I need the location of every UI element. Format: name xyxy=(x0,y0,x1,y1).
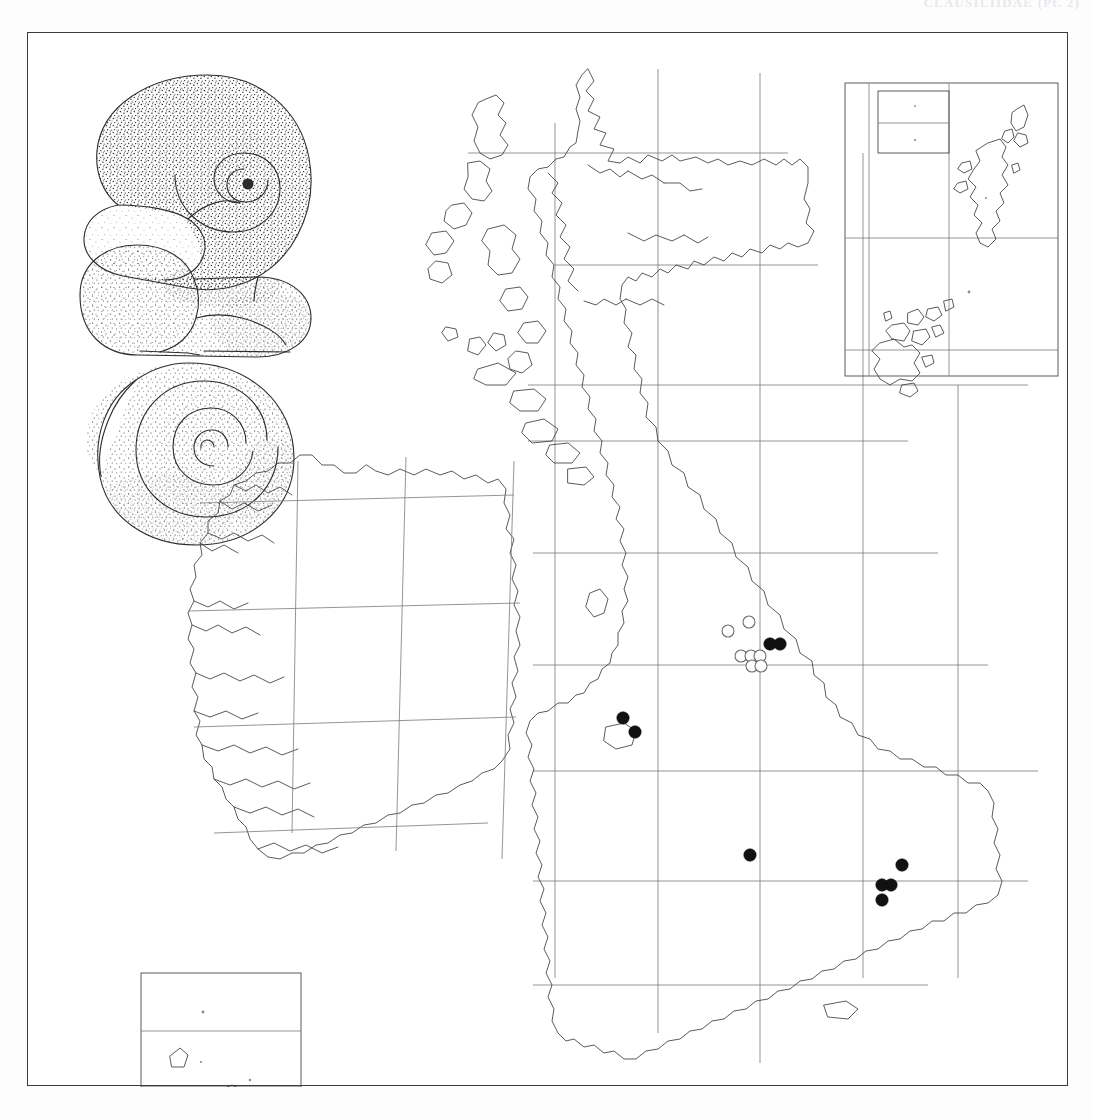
record-dot-filled xyxy=(617,712,629,724)
record-dot-open xyxy=(722,625,734,637)
shetland-outline xyxy=(954,105,1028,293)
record-dot-filled xyxy=(629,726,641,738)
record-dot-open xyxy=(755,660,767,672)
distribution-records xyxy=(617,616,908,906)
great-britain-outline-detail xyxy=(523,69,818,1043)
british-isles-distribution-map xyxy=(28,33,1069,1087)
distribution-plate-frame xyxy=(27,32,1068,1086)
isle-of-wight xyxy=(824,1001,858,1019)
page-root: CLAUSILIIDAE (Pt. 2) xyxy=(0,0,1094,1120)
ireland-west-detail xyxy=(192,485,338,853)
record-dot-filled xyxy=(896,859,908,871)
hebrides-islands xyxy=(426,95,594,485)
record-dot-filled xyxy=(774,638,786,650)
record-dot-open xyxy=(743,616,755,628)
irish-national-grid xyxy=(188,457,520,859)
isle-of-man xyxy=(586,589,608,617)
orkney-shetland-inset xyxy=(845,83,1058,397)
record-dot-filled xyxy=(876,894,888,906)
running-head: CLAUSILIIDAE (Pt. 2) xyxy=(700,0,1080,11)
ireland-coastline xyxy=(188,455,520,859)
record-dot-filled xyxy=(885,879,897,891)
record-dot-filled xyxy=(744,849,756,861)
scotland-detail xyxy=(548,165,708,305)
channel-islands-inset xyxy=(141,973,301,1087)
great-britain-coastline xyxy=(526,69,1002,1059)
orkney-outline xyxy=(872,299,954,397)
